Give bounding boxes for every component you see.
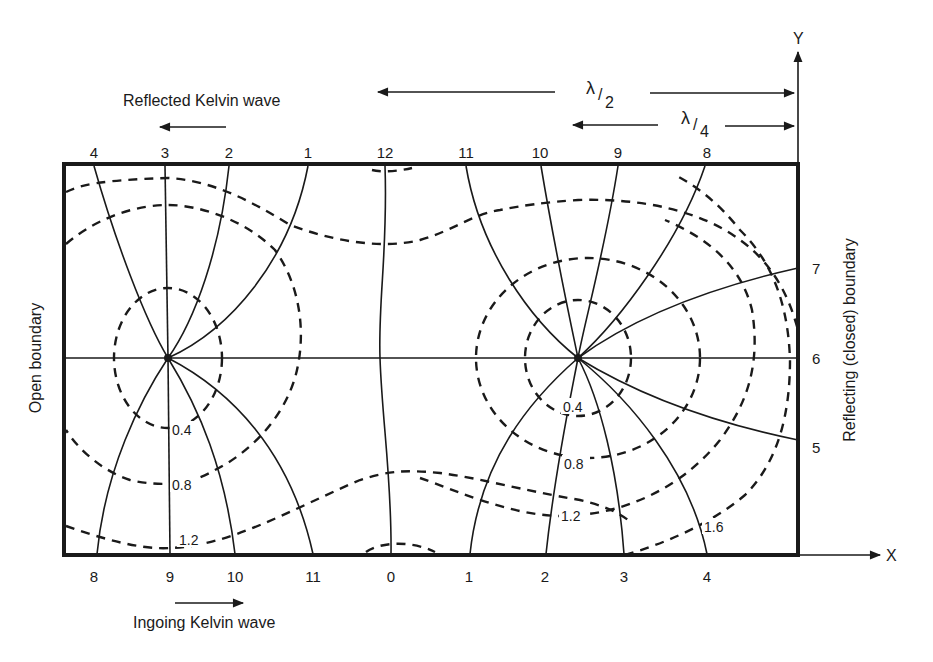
svg-text:1.2: 1.2 xyxy=(179,532,199,548)
svg-text:/: / xyxy=(693,116,698,133)
svg-text:4: 4 xyxy=(700,123,709,140)
svg-text:0.8: 0.8 xyxy=(172,477,192,493)
svg-text:2: 2 xyxy=(225,144,233,161)
svg-text:1: 1 xyxy=(304,144,312,161)
corange-right-1.2 xyxy=(420,220,755,516)
svg-text:9: 9 xyxy=(614,144,622,161)
right-cotidal-labels: 7 6 5 xyxy=(812,260,820,456)
svg-text:11: 11 xyxy=(458,144,474,161)
svg-text:7: 7 xyxy=(812,260,820,277)
cotidal-left-1 xyxy=(168,166,308,358)
corange-top-center xyxy=(372,168,412,171)
svg-text:4: 4 xyxy=(703,568,711,585)
corange-upper xyxy=(66,178,798,330)
corange-left-1.2 xyxy=(66,471,628,548)
svg-text:λ: λ xyxy=(586,78,595,98)
corange-bottom-center xyxy=(366,544,435,552)
y-axis-label: Y xyxy=(793,30,804,47)
svg-text:0.8: 0.8 xyxy=(564,456,584,472)
svg-text:3: 3 xyxy=(161,144,169,161)
svg-text:0.4: 0.4 xyxy=(563,399,583,415)
x-axis-label: X xyxy=(886,547,897,564)
reflecting-boundary-label: Reflecting (closed) boundary xyxy=(841,238,858,442)
cotidal-left-9 xyxy=(168,358,170,554)
left-corange-labels: 0.4 0.8 1.2 xyxy=(170,421,205,548)
top-cotidal-labels: 4 3 2 1 12 11 10 9 8 xyxy=(90,144,711,161)
cotidal-right-4 xyxy=(578,358,707,554)
svg-text:1.6: 1.6 xyxy=(704,519,724,535)
cotidal-lines xyxy=(64,166,798,554)
cotidal-right-5 xyxy=(578,358,798,440)
svg-text:λ: λ xyxy=(681,108,690,128)
svg-text:12: 12 xyxy=(377,144,394,161)
svg-text:1: 1 xyxy=(465,568,473,585)
open-boundary-label: Open boundary xyxy=(27,303,44,413)
reflected-wave-label: Reflected Kelvin wave xyxy=(123,92,281,109)
svg-text:4: 4 xyxy=(90,144,98,161)
svg-text:2: 2 xyxy=(541,568,549,585)
half-wavelength-label: λ / 2 xyxy=(586,78,614,111)
svg-text:8: 8 xyxy=(703,144,711,161)
svg-text:0: 0 xyxy=(387,568,395,585)
amphidromic-point-left xyxy=(164,354,172,362)
svg-text:3: 3 xyxy=(620,568,628,585)
svg-text:11: 11 xyxy=(305,568,321,585)
bottom-cotidal-labels: 8 9 10 11 0 1 2 3 4 xyxy=(90,568,711,585)
svg-text:1.2: 1.2 xyxy=(561,508,581,524)
cotidal-left-10 xyxy=(168,358,235,554)
svg-text:5: 5 xyxy=(812,439,820,456)
quarter-wavelength-label: λ / 4 xyxy=(681,108,709,140)
ingoing-wave-label: Ingoing Kelvin wave xyxy=(133,614,275,631)
svg-text:9: 9 xyxy=(166,568,174,585)
cotidal-right-9 xyxy=(578,166,618,358)
cotidal-left-8 xyxy=(97,358,168,554)
svg-text:10: 10 xyxy=(227,568,244,585)
cotidal-left-2 xyxy=(168,166,229,358)
cotidal-right-7 xyxy=(578,268,798,358)
cotidal-left-4 xyxy=(94,166,168,358)
cotidal-right-8 xyxy=(578,166,705,358)
cotidal-left-3 xyxy=(165,166,168,358)
svg-text:10: 10 xyxy=(532,144,549,161)
svg-text:6: 6 xyxy=(812,350,820,367)
svg-text:2: 2 xyxy=(605,94,614,111)
kelvin-wave-diagram: X Y λ / 2 λ / 4 Reflected Kelvin wave In… xyxy=(0,0,933,662)
amphidromic-point-right xyxy=(574,354,582,362)
cotidal-center-12-0 xyxy=(380,166,391,554)
svg-text:/: / xyxy=(598,86,603,103)
svg-text:0.4: 0.4 xyxy=(172,422,192,438)
svg-text:8: 8 xyxy=(90,568,98,585)
right-corange-labels: 0.4 0.8 1.2 1.6 xyxy=(559,398,730,535)
corange-right-1.6 xyxy=(625,175,790,555)
